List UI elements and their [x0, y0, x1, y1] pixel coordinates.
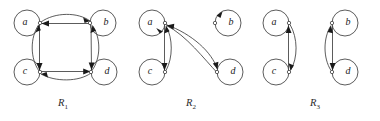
- figure-canvas: a b c d: [0, 0, 380, 121]
- graph-R3: a b c d: [263, 10, 358, 85]
- node-label-c: c: [148, 65, 153, 76]
- arrowhead-c-to-a: [286, 26, 292, 34]
- node-label-b: b: [346, 16, 351, 27]
- node-label-d: d: [105, 65, 111, 76]
- vertex-dot-d: [215, 70, 218, 73]
- vertex-dot-d: [89, 70, 92, 73]
- node-label-a: a: [148, 16, 153, 27]
- caption-R1: R1: [58, 97, 68, 111]
- edge-d-to-a: [167, 26, 218, 73]
- node-label-b: b: [104, 16, 109, 27]
- node-label-b: b: [229, 16, 234, 27]
- node-label-d: d: [231, 65, 237, 76]
- vertex-dot-c: [163, 70, 166, 73]
- vertex-dot-c: [287, 70, 290, 73]
- caption-R3: R3: [310, 97, 320, 111]
- edge-a-to-d: [166, 25, 218, 70]
- vertex-dot-a: [287, 21, 290, 24]
- node-label-d: d: [346, 65, 352, 76]
- caption-R3-subscript: 3: [316, 103, 320, 111]
- vertex-dot-b: [213, 21, 216, 24]
- caption-R1-subscript: 1: [64, 103, 68, 111]
- graph-R2: a b c d: [139, 10, 243, 85]
- node-label-c: c: [272, 65, 277, 76]
- node-label-a: a: [272, 16, 277, 27]
- caption-R2: R2: [186, 97, 196, 111]
- node-label-c: c: [23, 65, 28, 76]
- vertex-dot-a: [163, 21, 166, 24]
- arrowhead-b-to-d: [89, 63, 95, 70]
- vertex-dot-b: [88, 21, 91, 24]
- caption-R2-subscript: 2: [192, 103, 196, 111]
- vertex-dot-a: [38, 21, 41, 24]
- vertex-dot-d: [330, 70, 333, 73]
- graph-R1: a b c d: [14, 10, 117, 85]
- vertex-dot-c: [38, 70, 41, 73]
- edge-a-to-c: [290, 25, 296, 71]
- vertex-dot-b: [330, 21, 333, 24]
- arrowhead-b-to-a: [42, 21, 50, 27]
- node-label-a: a: [23, 16, 28, 27]
